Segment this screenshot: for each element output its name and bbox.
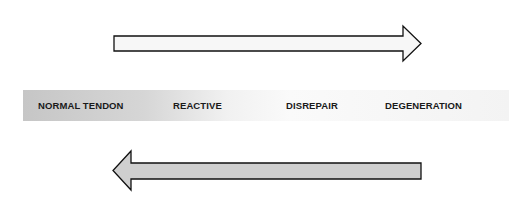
regression-arrow-left-icon <box>113 151 421 190</box>
progression-arrow-right-icon <box>114 26 421 61</box>
stage-degeneration: DEGENERATION <box>385 90 462 121</box>
stage-reactive: REACTIVE <box>173 90 222 121</box>
stage-normal-tendon: NORMAL TENDON <box>38 90 124 121</box>
stage-disrepair: DISREPAIR <box>286 90 338 121</box>
